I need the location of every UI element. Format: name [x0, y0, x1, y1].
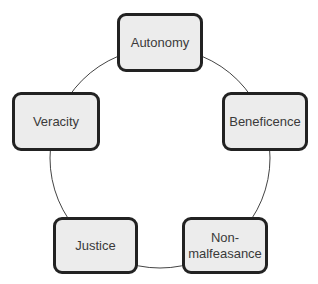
node-non-malfeasance: Non- malfeasance — [182, 217, 268, 274]
node-label: Justice — [75, 238, 115, 254]
node-autonomy: Autonomy — [117, 13, 203, 72]
node-label: Beneficence — [229, 114, 301, 130]
node-label: Non- malfeasance — [188, 230, 262, 262]
node-label: Veracity — [33, 114, 79, 130]
node-veracity: Veracity — [12, 92, 100, 151]
node-beneficence: Beneficence — [222, 92, 308, 151]
node-justice: Justice — [53, 217, 138, 274]
node-label: Autonomy — [131, 35, 190, 51]
